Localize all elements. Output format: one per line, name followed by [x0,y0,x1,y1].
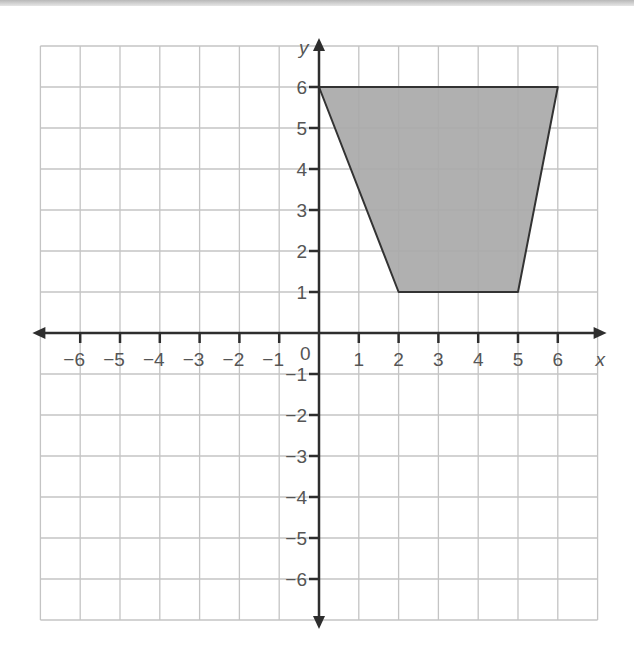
x-tick-label: −5 [103,349,125,370]
x-tick-label: −2 [223,349,245,370]
x-tick-label: 1 [354,349,365,370]
x-tick-label: −4 [143,349,165,370]
shapes [319,87,558,292]
x-tick-label: 4 [473,349,484,370]
y-tick-label: −1 [285,364,307,385]
y-axis-arrow-down-icon [313,616,325,629]
y-tick-label: −4 [285,487,307,508]
origin-label: 0 [300,343,311,364]
coordinate-plane: x y 0 −6−5−4−3−2−1123456−6−5−4−3−2−11234… [0,0,634,656]
x-tick-label: 6 [553,349,564,370]
x-tick-label: 5 [513,349,524,370]
y-tick-label: 6 [296,77,307,98]
x-axis-arrow-left-icon [32,327,45,339]
x-axis-label: x [595,349,607,370]
y-axis-arrow-up-icon [313,38,325,51]
y-tick-label: 4 [296,159,307,180]
x-tick-label: 2 [393,349,404,370]
y-tick-label: 5 [296,118,307,139]
shaded-trapezoid [319,87,558,292]
x-tick-label: 3 [433,349,444,370]
x-tick-label: −6 [63,349,85,370]
y-tick-label: 3 [296,200,307,221]
x-tick-label: −3 [183,349,205,370]
y-tick-label: −6 [285,569,307,590]
x-axis-arrow-right-icon [594,327,607,339]
y-tick-label: 1 [296,282,307,303]
y-tick-label: −3 [285,446,307,467]
y-tick-label: 2 [296,241,307,262]
x-tick-label: −1 [262,349,284,370]
y-tick-label: −2 [285,405,307,426]
y-axis-label: y [297,37,310,58]
y-tick-label: −5 [285,528,307,549]
